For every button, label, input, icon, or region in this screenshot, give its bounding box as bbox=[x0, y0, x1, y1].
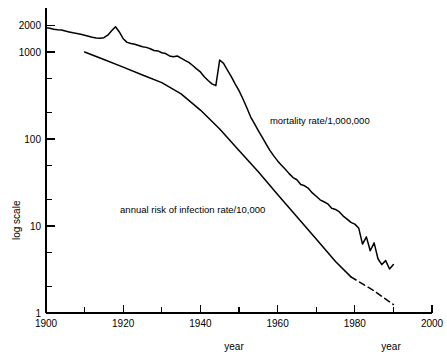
y-axis-tick-labels: 11010010002000 bbox=[19, 20, 42, 318]
y-tick-label: 10 bbox=[30, 221, 42, 232]
x-tick-label: 1920 bbox=[112, 318, 135, 329]
series-line-infection-risk-projection bbox=[351, 277, 393, 305]
x-axis-tick-labels: 190019201940196019802000 bbox=[35, 318, 444, 329]
x-tick-label: 1960 bbox=[266, 318, 289, 329]
axes-group bbox=[46, 8, 432, 313]
annotation-mortality-rate: mortality rate/1,000,000 bbox=[270, 115, 370, 126]
series-line-mortality-rate bbox=[46, 27, 393, 269]
x-tick-label: 1980 bbox=[344, 318, 367, 329]
y-tick-label: 1000 bbox=[19, 47, 42, 58]
x-tick-label: 1900 bbox=[35, 318, 58, 329]
y-axis-ticks bbox=[46, 26, 55, 313]
series-line-infection-risk bbox=[85, 52, 351, 277]
x-axis-ticks bbox=[46, 305, 432, 313]
x-axis-title-right: year bbox=[381, 341, 401, 352]
x-axis-title: year bbox=[224, 341, 244, 352]
x-tick-label: 1940 bbox=[189, 318, 212, 329]
x-tick-label: 2000 bbox=[421, 318, 444, 329]
annotation-infection-rate: annual risk of infection rate/10,000 bbox=[120, 204, 265, 215]
y-tick-label: 100 bbox=[24, 134, 41, 145]
y-axis-title: log scale bbox=[11, 200, 22, 240]
y-tick-label: 1 bbox=[35, 308, 41, 319]
y-tick-label: 2000 bbox=[19, 20, 42, 31]
tuberculosis-decline-chart: 11010010002000 190019201940196019802000 … bbox=[0, 0, 447, 361]
chart-container: 11010010002000 190019201940196019802000 … bbox=[0, 0, 447, 361]
